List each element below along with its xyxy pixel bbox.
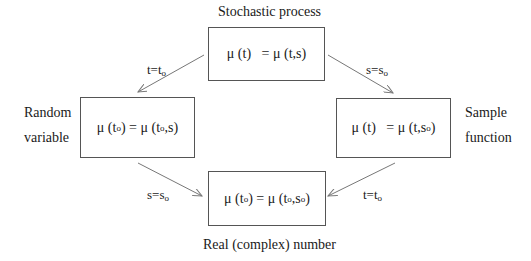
box-sample-function: μ (t) = μ (t,so) <box>336 98 451 158</box>
arrow-label-top-right: s=so <box>366 62 388 78</box>
random-label-line2: variable <box>24 130 69 146</box>
arrow-label-top-left: t=to <box>147 62 166 78</box>
stochastic-process-title: Stochastic process <box>218 4 321 20</box>
random-label-line1: Random <box>24 105 71 121</box>
box-stochastic-process: μ (t) = μ (t,s) <box>208 27 325 81</box>
real-number-title: Real (complex) number <box>203 237 336 253</box>
top-lhs: μ (t) <box>227 46 251 62</box>
arrow-label-bottom-right: t=to <box>363 187 382 203</box>
box-random-variable: μ (to) = μ (to,s) <box>80 97 195 158</box>
arrow-bottom-right <box>328 163 395 196</box>
sample-label-line1: Sample <box>465 105 507 121</box>
box-real-number: μ (to) = μ (to,so) <box>208 171 326 226</box>
arrow-label-bottom-left: s=so <box>147 187 169 203</box>
sample-label-line2: function <box>465 130 512 146</box>
top-rhs: = μ (t,s) <box>262 46 307 62</box>
